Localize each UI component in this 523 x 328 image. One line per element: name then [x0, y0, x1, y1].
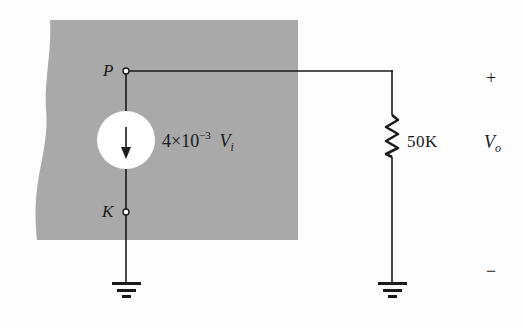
output-variable-subscript: o: [495, 141, 501, 155]
output-plus-label: +: [486, 68, 496, 89]
node-k-label: K: [102, 202, 113, 222]
ground-icon: [112, 282, 141, 298]
ground-icon: [378, 282, 407, 298]
node-p-label: P: [103, 61, 113, 81]
current-variable: V: [219, 131, 230, 151]
output-minus-label: −: [486, 261, 496, 282]
circuit-svg: [0, 0, 523, 328]
resistor-icon: [386, 115, 398, 157]
circuit-diagram: P K 4×10−3 Vi 50K + Vo −: [0, 0, 523, 328]
resistor-label: 50K: [407, 132, 438, 152]
output-variable: V: [484, 132, 495, 152]
node-k-terminal: [123, 209, 129, 215]
current-coefficient: 4×10: [162, 131, 199, 151]
current-variable-subscript: i: [230, 140, 233, 154]
current-source-label: 4×10−3 Vi: [162, 129, 234, 155]
output-voltage-label: Vo: [484, 132, 501, 156]
current-exponent: −3: [199, 129, 211, 141]
node-p-terminal: [123, 68, 129, 74]
